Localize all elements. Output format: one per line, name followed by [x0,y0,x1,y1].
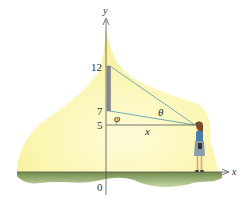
y-axis-label: y [103,6,107,16]
light-glow [17,28,218,172]
diagram-canvas: y x 0 12 7 5 θ φ x [0,0,250,205]
phi-label: φ [114,113,120,124]
ground [17,172,222,187]
x-axis-label: x [232,167,236,177]
distance-x-label: x [145,126,150,137]
origin-label: 0 [97,182,103,193]
tick-label-5: 5 [97,120,103,131]
tick-label-12: 12 [91,62,102,73]
theta-label: θ [158,107,163,118]
screen-bar [107,66,111,111]
diagram-svg [0,0,250,205]
tick-label-7: 7 [97,106,103,117]
